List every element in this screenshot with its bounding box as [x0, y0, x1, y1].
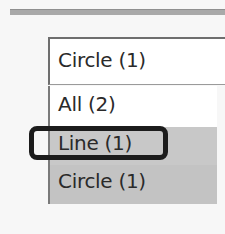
top-divider-bar: [10, 9, 225, 15]
filter-combobox[interactable]: Circle (1): [48, 37, 225, 85]
combobox-selected-value: Circle (1): [58, 48, 146, 72]
dropdown-option-all[interactable]: All (2): [50, 86, 217, 127]
annotation-highlight-box: [29, 126, 168, 160]
dropdown-option-circle[interactable]: Circle (1): [50, 165, 217, 204]
